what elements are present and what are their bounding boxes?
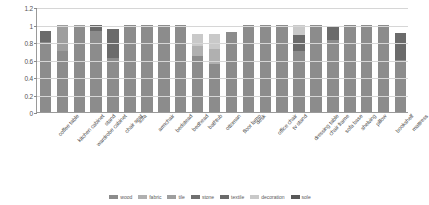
bar-segment <box>107 58 118 112</box>
y-axis-tick-label: 1.2 <box>25 5 33 12</box>
legend-swatch <box>220 195 229 199</box>
plot-area: 00.20.40.60.811.2 <box>36 8 408 113</box>
legend-label: stone <box>202 194 214 200</box>
bar-segment <box>260 25 271 113</box>
bar-segment <box>395 60 406 113</box>
legend-swatch <box>291 195 300 199</box>
y-axis-tick-label: 0.2 <box>25 92 33 99</box>
y-axis-tick-label: 0.4 <box>25 75 33 82</box>
bar-segment <box>361 25 372 112</box>
grid-line <box>37 26 408 27</box>
y-axis-tick <box>34 43 37 44</box>
bar-segment <box>209 49 220 64</box>
bar-segment <box>344 25 355 112</box>
legend-item[interactable]: decoration <box>250 194 284 200</box>
x-axis-label: ottoman <box>224 113 242 131</box>
bar-segment <box>378 25 389 112</box>
x-axis-label: bookshelf <box>394 113 414 134</box>
bar-segment <box>310 25 321 112</box>
y-axis-tick-label: 0.6 <box>25 57 33 64</box>
bar-segment <box>243 25 254 112</box>
grid-line <box>37 43 408 44</box>
bar-segment <box>209 34 220 49</box>
legend-label: decoration <box>261 194 284 200</box>
y-axis-tick-label: 0.8 <box>25 40 33 47</box>
y-axis-tick-label: 1 <box>30 22 33 29</box>
x-axis-label: coffee table <box>57 113 80 137</box>
bar-segment <box>327 40 338 112</box>
bar-segment <box>40 31 51 42</box>
legend-label: textile <box>231 194 244 200</box>
bar-segment <box>141 25 152 112</box>
bar-segment <box>175 25 186 112</box>
grid-line <box>37 61 408 62</box>
legend-item[interactable]: textile <box>220 194 244 200</box>
bar-segment <box>158 25 169 113</box>
x-axis-labels: coffee tablekitchen cabinetwardrobe cabi… <box>36 113 408 175</box>
legend-swatch <box>191 195 200 199</box>
legend-item[interactable]: sole <box>291 194 311 200</box>
legend-label: tile <box>178 194 184 200</box>
legend-swatch <box>138 195 147 199</box>
x-axis-label: bedstead <box>174 113 194 133</box>
legend-swatch <box>109 195 118 199</box>
legend-item[interactable]: stone <box>191 194 214 200</box>
bar-segment <box>327 26 338 40</box>
bar-segment <box>395 33 406 59</box>
grid-line <box>37 78 408 79</box>
legend-swatch <box>250 195 259 199</box>
y-axis-tick <box>34 8 37 9</box>
grid-line <box>37 96 408 97</box>
bar-segment <box>57 25 68 51</box>
legend-label: wood <box>120 194 132 200</box>
legend-label: sole <box>302 194 311 200</box>
legend-item[interactable]: tile <box>167 194 184 200</box>
bar-segment <box>124 25 135 112</box>
bar-segment <box>209 64 220 112</box>
legend-label: fabric <box>149 194 161 200</box>
bar-segment <box>74 27 85 112</box>
bar-segment <box>192 46 203 57</box>
y-axis-tick <box>34 61 37 62</box>
legend-item[interactable]: wood <box>109 194 132 200</box>
chart-legend: woodfabrictilestonetextiledecorationsole <box>0 194 420 205</box>
bar-segment <box>192 56 203 112</box>
y-axis-tick <box>34 26 37 27</box>
legend-swatch <box>167 195 176 199</box>
y-axis-tick <box>34 96 37 97</box>
bar-segment <box>276 25 287 112</box>
grid-line <box>37 8 408 9</box>
y-axis-tick <box>34 78 37 79</box>
y-axis-tick-label: 0 <box>30 110 33 117</box>
bar-segment <box>40 42 51 112</box>
legend-item[interactable]: fabric <box>138 194 161 200</box>
x-axis-label: armchair <box>157 113 176 132</box>
bar-segment <box>293 25 304 35</box>
